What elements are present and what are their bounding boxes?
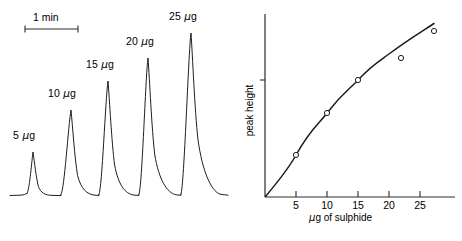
data-point-10 (324, 110, 329, 115)
peak-label-10: 10 μg (48, 88, 76, 99)
peak-label-20: 20 μg (126, 36, 154, 47)
x-axis-title-text: g of sulphide (315, 212, 372, 223)
mu-symbol: μ (98, 58, 108, 70)
x-axis-title: μg of sulphide (309, 212, 372, 223)
calibration-fit-curve (266, 24, 435, 197)
peak-label-20-unit: g (148, 35, 154, 47)
recorder-trace (10, 33, 228, 196)
peak-label-5-unit: g (29, 129, 35, 141)
data-point-15 (355, 77, 360, 82)
chromatogram-svg (0, 0, 231, 241)
peak-label-10-amount: 10 (48, 87, 60, 99)
mu-symbol: μ (60, 87, 70, 99)
x-tick-label-25: 25 (410, 199, 430, 211)
peak-label-25-amount: 25 (169, 10, 181, 22)
scale-bar (25, 26, 78, 33)
figure-container: 1 min 5 μg 10 μg 15 μg 20 μg 25 μg (0, 0, 462, 241)
mu-symbol: μ (19, 129, 29, 141)
mu-symbol: μ (181, 10, 191, 22)
peak-label-15-unit: g (108, 58, 114, 70)
peak-label-15-amount: 15 (86, 58, 98, 70)
x-tick-label-5: 5 (286, 199, 306, 211)
peak-label-25: 25 μg (169, 11, 197, 22)
x-axis-ticks (296, 191, 420, 197)
scale-bar-label: 1 min (33, 11, 59, 23)
data-point-25 (431, 28, 436, 33)
calibration-panel: 5 10 15 20 25 μg of sulphide peak height (231, 0, 462, 241)
x-tick-label-10: 10 (317, 199, 337, 211)
peak-label-10-unit: g (70, 87, 76, 99)
data-point-markers (293, 28, 436, 157)
data-point-5 (293, 152, 298, 157)
y-axis-title: peak height (244, 76, 255, 146)
peak-label-15: 15 μg (86, 59, 114, 70)
peak-label-25-unit: g (191, 10, 197, 22)
data-point-20 (398, 55, 403, 60)
mu-symbol: μ (138, 35, 148, 47)
chromatogram-panel: 1 min 5 μg 10 μg 15 μg 20 μg 25 μg (0, 0, 231, 241)
peak-label-5: 5 μg (13, 130, 35, 141)
x-tick-label-20: 20 (379, 199, 399, 211)
peak-label-20-amount: 20 (126, 35, 138, 47)
x-tick-label-15: 15 (348, 199, 368, 211)
